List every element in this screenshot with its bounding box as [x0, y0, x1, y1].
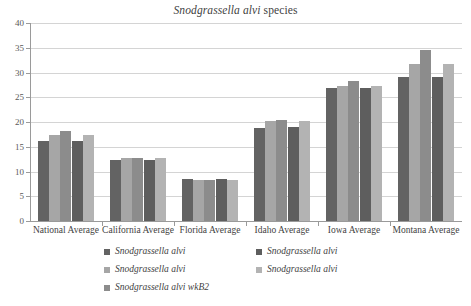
bar-group: [326, 23, 382, 221]
y-axis-tick-label: 15: [2, 143, 24, 152]
bar: [155, 158, 166, 221]
bar: [193, 180, 204, 221]
bar: [443, 64, 454, 221]
legend-item-label: Snodgrassella alvi: [115, 265, 185, 275]
legend-item[interactable]: Snodgrassella alvi: [256, 261, 337, 279]
x-axis-tick-mark: [246, 222, 247, 226]
bar: [420, 50, 431, 221]
legend-item-label: Snodgrassella alvi: [115, 247, 185, 257]
legend-swatch-icon: [104, 285, 110, 291]
legend-item-label: Snodgrassella alvi: [267, 247, 337, 257]
y-axis-tick-label: 30: [2, 69, 24, 78]
y-axis-tick-label: 40: [2, 19, 24, 28]
bar: [216, 179, 227, 221]
x-axis-tick-label: National Average: [30, 226, 102, 236]
x-axis-tick-mark: [318, 222, 319, 226]
y-axis-tick-label: 10: [2, 168, 24, 177]
legend-swatch-icon: [104, 249, 110, 255]
bar: [398, 77, 409, 221]
legend-column-right: Snodgrassella alviSnodgrassella alvi: [256, 243, 337, 279]
chart-title: Snodgrassella alvi species: [0, 4, 471, 16]
x-axis-tick-mark: [390, 222, 391, 226]
y-axis-line: [30, 23, 31, 222]
bar: [60, 131, 71, 221]
legend-item[interactable]: Snodgrassella alvi: [104, 243, 209, 261]
legend-item-label: Snodgrassella alvi: [267, 265, 337, 275]
bar: [409, 64, 420, 221]
chart-container: Snodgrassella alvi species 0510152025303…: [0, 0, 471, 306]
x-axis-tick-mark: [174, 222, 175, 226]
bar-group: [398, 23, 454, 221]
bar: [227, 180, 238, 221]
x-axis-tick-label: Iowa Average: [318, 226, 390, 236]
y-axis-tick-label: 20: [2, 118, 24, 127]
bar-group: [254, 23, 310, 221]
bar: [121, 158, 132, 221]
bar: [182, 179, 193, 221]
bar: [132, 158, 143, 221]
x-axis-tick-label: Montana Average: [390, 226, 462, 236]
bar: [144, 160, 155, 221]
bar: [360, 88, 371, 221]
bar: [432, 77, 443, 221]
bar: [72, 141, 83, 221]
bar: [326, 88, 337, 221]
legend-item[interactable]: Snodgrassella alvi wkB2: [104, 279, 209, 297]
bar: [204, 180, 215, 221]
legend-swatch-icon: [104, 267, 110, 273]
legend-item[interactable]: Snodgrassella alvi: [104, 261, 209, 279]
bar: [254, 128, 265, 221]
bar: [38, 141, 49, 221]
bar: [299, 121, 310, 221]
legend-item[interactable]: Snodgrassella alvi: [256, 243, 337, 261]
bar-group: [38, 23, 94, 221]
bar-group: [182, 23, 238, 221]
legend-swatch-icon: [256, 249, 262, 255]
bar: [83, 135, 94, 221]
bar: [348, 81, 359, 221]
legend-column-left: Snodgrassella alviSnodgrassella alviSnod…: [104, 243, 209, 297]
x-axis-tick-label: Florida Average: [174, 226, 246, 236]
legend-swatch-icon: [256, 267, 262, 273]
y-axis-tick-label: 35: [2, 44, 24, 53]
bar: [49, 135, 60, 221]
bar: [110, 160, 121, 221]
legend-item-label: Snodgrassella alvi wkB2: [115, 283, 209, 293]
x-axis-tick-label: Idaho Average: [246, 226, 318, 236]
chart-title-species: Snodgrassella alvi: [174, 4, 261, 16]
bar-group: [110, 23, 166, 221]
bar: [288, 127, 299, 221]
chart-legend: Snodgrassella alviSnodgrassella alviSnod…: [104, 243, 404, 301]
bar: [337, 86, 348, 221]
chart-title-word: species: [264, 4, 298, 16]
y-axis-tick-label: 25: [2, 93, 24, 102]
bar: [265, 121, 276, 221]
bar: [276, 120, 287, 221]
y-axis-tick-label: 0: [2, 217, 24, 226]
bars-layer: [30, 23, 462, 222]
y-axis-tick-label: 5: [2, 192, 24, 201]
bar: [371, 86, 382, 221]
plot-area: [30, 23, 462, 222]
x-axis-tick-label: California Average: [102, 226, 174, 236]
x-axis-tick-mark: [102, 222, 103, 226]
